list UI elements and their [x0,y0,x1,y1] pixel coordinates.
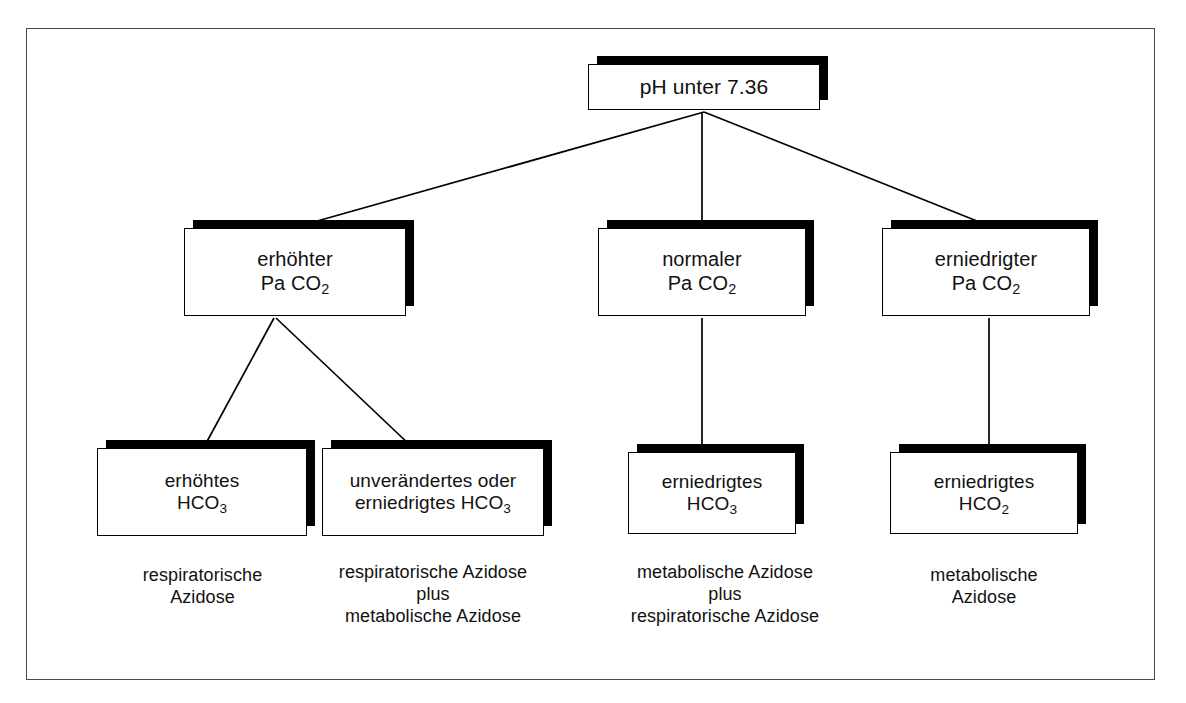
line-2-prefix: HCO [959,493,1002,514]
edge-root-to-co2-high [296,112,704,227]
node-hco3-unveraendert[interactable]: unverändertes odererniedrigtes HCO3 [322,448,544,536]
node-paco2-erniedrigt[interactable]: erniedrigterPa CO2 [882,228,1090,316]
line-2-prefix: erniedrigtes HCO [355,492,503,513]
node-shadow-right [819,56,828,100]
node-ph-under-7-36[interactable]: pH unter 7.36 [588,64,820,110]
node-shadow-right [405,220,414,306]
node-hco2-erniedrigt[interactable]: erniedrigtesHCO2 [890,452,1078,534]
edge-root-to-co2-low [704,112,992,227]
node-shadow-right [805,220,814,306]
line-2-subscript: 2 [728,281,736,297]
node-shadow-right [795,444,804,524]
line-1: erniedrigter [935,248,1037,270]
node-shadow-right [1089,220,1098,306]
node-hco3-erhoeht[interactable]: erhöhtesHCO3 [97,448,307,536]
line-2-subscript: 3 [219,501,227,516]
node-shadow-right [306,440,315,526]
node-hco3-unveraendert-label: unverändertes odererniedrigtes HCO3 [350,470,517,515]
node-paco2-normal-label: normalerPa CO2 [662,248,742,295]
line-1: normaler [662,248,742,270]
line-1: erniedrigtes [662,471,762,492]
line-1: erhöhtes [165,470,240,491]
line-2-prefix: HCO [687,493,730,514]
node-shadow-right [1077,444,1086,524]
line-2-prefix: Pa CO [668,272,729,294]
line-1: erniedrigtes [934,471,1034,492]
node-shadow-top [331,440,552,449]
line-2-subscript: 3 [503,501,511,516]
node-hco2-erniedrigt-label: erniedrigtesHCO2 [934,471,1034,516]
node-hco3-erniedrigt-label: erniedrigtesHCO3 [662,471,762,516]
line-2-subscript: 2 [1001,502,1009,517]
node-shadow-top [899,444,1086,453]
line-1: unverändertes oder [350,470,517,491]
node-paco2-erniedrigt-label: erniedrigterPa CO2 [935,248,1037,295]
line-2-prefix: HCO [177,492,220,513]
line-1: erhöhter [257,248,332,270]
node-shadow-top [637,444,804,453]
node-shadow-top [891,220,1098,229]
edge-co2high-to-hco3unch [276,318,412,447]
node-hco3-erhoeht-label: erhöhtesHCO3 [165,470,240,515]
line-2-subscript: 2 [321,281,329,297]
flowchart-figure: pH unter 7.36 erhöhterPa CO2 normalerPa … [0,0,1186,703]
caption-metabolische-plus-respiratorische: metabolische Azidose plus respiratorisch… [580,562,870,628]
line-2-subscript: 3 [729,502,737,517]
line-2-subscript: 2 [1012,281,1020,297]
node-shadow-top [106,440,315,449]
node-shadow-right [543,440,552,526]
node-shadow-top [193,220,414,229]
node-hco3-erniedrigt[interactable]: erniedrigtesHCO3 [628,452,796,534]
caption-metabolische-azidose: metabolische Azidose [878,565,1090,609]
node-ph-label: pH unter 7.36 [640,75,769,100]
node-paco2-erhoeht-label: erhöhterPa CO2 [257,248,332,295]
node-paco2-normal[interactable]: normalerPa CO2 [598,228,806,316]
edge-co2high-to-hco3high [204,318,274,447]
line-2-prefix: Pa CO [952,272,1013,294]
caption-respiratorische-azidose: respiratorische Azidose [80,565,325,609]
node-shadow-top [597,56,828,65]
node-shadow-top [607,220,814,229]
line-2-prefix: Pa CO [261,272,322,294]
node-paco2-erhoeht[interactable]: erhöhterPa CO2 [184,228,406,316]
caption-respiratorische-plus-metabolische: respiratorische Azidose plus metabolisch… [297,562,569,628]
